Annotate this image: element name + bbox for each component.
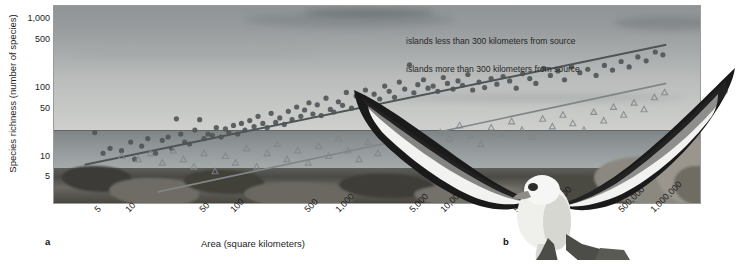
data-point [251,124,256,129]
data-point [269,111,274,116]
data-point [340,103,345,108]
data-point [284,156,290,162]
data-point [295,148,301,154]
data-point [107,146,112,151]
panel-letter-a: a [45,236,50,247]
data-point [274,141,280,147]
y-axis-title: Species richness (number of species) [7,9,18,179]
data-point [128,139,133,144]
head [524,175,560,205]
data-point [323,96,328,101]
data-point [254,164,260,170]
data-point [192,127,197,132]
data-point [336,99,341,104]
data-point [174,116,179,121]
data-point [260,121,265,126]
data-point [92,130,97,135]
data-point [315,102,320,107]
x-axis-tick: 5 [93,204,103,214]
figure-species-area-relationship: 1,00050010050105 Species richness (numbe… [0,0,737,264]
data-point [231,123,236,128]
data-point [191,164,197,170]
data-point [135,156,141,162]
legend-label-near: islands less than 300 kilometers from so… [406,36,576,46]
y-axis-tick: 50 [40,104,50,113]
data-point [298,114,303,119]
data-point [233,160,239,166]
data-point [139,143,144,148]
data-point [344,90,349,95]
data-point [255,114,260,119]
y-axis-tick: 100 [35,83,50,92]
albatross-illustration [352,50,737,260]
right-wing-shading [562,80,728,206]
data-point [214,125,219,130]
eye [528,183,538,191]
data-point [277,115,282,120]
data-point [160,138,165,143]
right-wing [558,68,735,210]
data-point [239,121,244,126]
data-point [212,168,218,174]
data-point [178,131,183,136]
y-axis-tick: 5 [45,172,50,181]
data-point [145,136,150,141]
data-point [201,150,207,156]
data-point [335,135,341,141]
data-point [306,100,311,105]
data-point [247,118,252,123]
data-point [294,104,299,109]
data-point [302,107,307,112]
y-axis-tick: 1,000 [27,14,50,23]
y-axis-tick: 10 [40,152,50,161]
data-point [244,145,250,151]
data-point [159,160,165,166]
data-point [316,143,322,149]
data-point [180,156,186,162]
data-point [165,134,170,139]
data-point [222,153,228,159]
data-point [100,151,105,156]
data-point [286,109,291,114]
y-axis-tick: 500 [35,35,50,44]
data-point [197,117,202,122]
data-point [310,111,315,116]
data-point [264,150,270,156]
right-foot-web [594,248,630,260]
